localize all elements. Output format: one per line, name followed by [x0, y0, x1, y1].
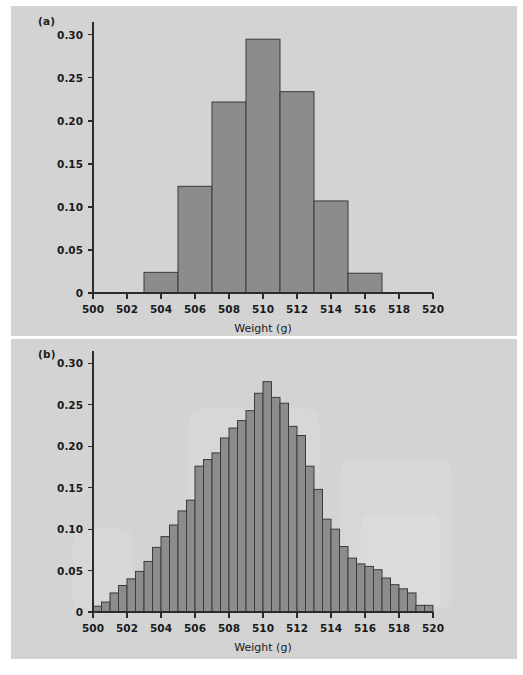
x-tick-label: 506 — [184, 622, 206, 634]
histogram-bar — [348, 558, 357, 612]
x-tick-label: 504 — [150, 303, 172, 315]
y-tick-label: 0.25 — [57, 72, 83, 84]
histogram-bar — [204, 460, 213, 612]
y-tick-label: 0.15 — [57, 158, 83, 170]
y-tick-label: 0 — [76, 287, 83, 299]
x-axis-title: Weight (g) — [234, 322, 291, 335]
histogram-bar — [195, 466, 204, 612]
histogram-bar — [306, 466, 315, 612]
histogram-bar — [212, 102, 246, 293]
histogram-bar — [187, 500, 196, 612]
histogram-bar — [416, 605, 425, 612]
histogram-bar — [399, 589, 408, 612]
histogram-bar — [289, 426, 298, 612]
x-tick-label: 502 — [116, 303, 138, 315]
histogram-bar — [110, 593, 119, 612]
x-tick-label: 516 — [354, 303, 376, 315]
y-tick-label: 0.10 — [57, 201, 83, 213]
histogram-bar — [314, 201, 348, 293]
histogram-bar — [408, 593, 417, 612]
x-tick-label: 520 — [422, 622, 444, 634]
x-tick-label: 506 — [184, 303, 206, 315]
histogram-bar — [229, 428, 238, 612]
x-tick-label: 510 — [252, 303, 274, 315]
histogram-bar — [365, 566, 374, 612]
y-tick-label: 0 — [76, 606, 83, 618]
x-tick-label: 512 — [286, 622, 308, 634]
histogram-bar — [178, 511, 187, 612]
histogram-bar — [331, 529, 340, 612]
histogram-bar — [221, 438, 230, 612]
x-tick-label: 508 — [218, 622, 240, 634]
x-axis-title: Weight (g) — [234, 641, 291, 654]
y-tick-label: 0.25 — [57, 399, 83, 411]
histogram-bar — [246, 411, 255, 612]
x-tick-label: 518 — [388, 622, 410, 634]
x-tick-label: 500 — [82, 622, 104, 634]
panel-b-plot: 00.050.100.150.200.250.30500502504506508… — [11, 339, 517, 659]
histogram-bar — [374, 570, 383, 612]
x-tick-label: 500 — [82, 303, 104, 315]
histogram-bar — [255, 393, 264, 612]
histogram-bar — [280, 92, 314, 293]
x-tick-label: 502 — [116, 622, 138, 634]
x-tick-label: 508 — [218, 303, 240, 315]
histogram-bar — [136, 571, 145, 612]
histogram-bar — [425, 605, 434, 612]
y-tick-label: 0.05 — [57, 244, 83, 256]
x-tick-label: 514 — [320, 303, 342, 315]
histogram-bar — [280, 403, 289, 612]
histogram-bar — [391, 585, 400, 612]
histogram-bar — [93, 606, 102, 612]
x-tick-label: 518 — [388, 303, 410, 315]
histogram-bar — [323, 519, 332, 612]
y-tick-label: 0.30 — [57, 357, 83, 369]
histogram-bar — [144, 561, 153, 612]
panel-b: (b) 00.050.100.150.200.250.3050050250450… — [11, 339, 517, 659]
x-tick-label: 512 — [286, 303, 308, 315]
panel-a: (a) 00.050.100.150.200.250.3050050250450… — [11, 6, 517, 336]
x-tick-label: 514 — [320, 622, 342, 634]
histogram-bar — [212, 453, 221, 612]
panel-a-plot: 00.050.100.150.200.250.30500502504506508… — [11, 6, 517, 336]
histogram-bar — [119, 585, 128, 612]
histogram-bar — [357, 564, 366, 612]
histogram-bar — [297, 436, 306, 612]
histogram-bar — [161, 537, 170, 612]
x-tick-label: 504 — [150, 622, 172, 634]
histogram-bar — [144, 272, 178, 293]
y-tick-label: 0.15 — [57, 482, 83, 494]
histogram-bar — [340, 547, 349, 612]
histogram-bar — [272, 397, 281, 612]
histogram-bar — [153, 547, 162, 612]
histogram-bar — [102, 602, 111, 612]
x-tick-label: 520 — [422, 303, 444, 315]
histogram-bar — [314, 489, 323, 612]
y-tick-label: 0.20 — [57, 115, 83, 127]
histogram-bar — [178, 186, 212, 293]
x-tick-label: 510 — [252, 622, 274, 634]
y-tick-label: 0.05 — [57, 565, 83, 577]
histogram-bar — [382, 578, 391, 612]
x-tick-label: 516 — [354, 622, 376, 634]
histogram-bar — [348, 273, 382, 293]
histogram-bar — [263, 382, 272, 612]
histogram-bar — [238, 421, 247, 612]
histogram-bar — [246, 39, 280, 293]
figure-container: (a) 00.050.100.150.200.250.3050050250450… — [0, 0, 523, 675]
histogram-bar — [127, 579, 136, 612]
y-tick-label: 0.30 — [57, 29, 83, 41]
y-tick-label: 0.10 — [57, 523, 83, 535]
histogram-bar — [170, 525, 179, 612]
y-tick-label: 0.20 — [57, 440, 83, 452]
